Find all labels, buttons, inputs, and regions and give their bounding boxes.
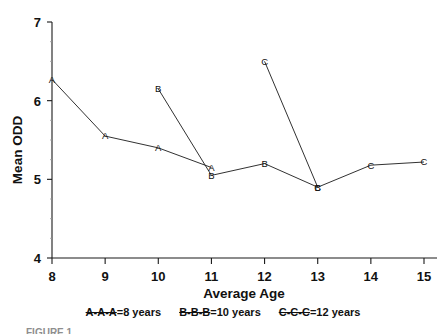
x-tick-label: 15 (417, 269, 431, 284)
data-point-A-9: A (102, 130, 109, 141)
x-tick-label: 14 (364, 269, 379, 284)
x-tick-label: 8 (48, 269, 55, 284)
data-point-C-14: C (367, 160, 374, 171)
legend-label: =8 years (117, 306, 161, 318)
data-point-B-11: B (208, 170, 214, 181)
legend-key: C-C-C (279, 306, 310, 318)
x-tick-label: 11 (205, 269, 219, 284)
x-tick-label: 13 (310, 269, 324, 284)
legend-label: =10 years (210, 306, 260, 318)
legend-entry-C: C-C-C=12 years (279, 306, 361, 318)
y-tick-label: 7 (34, 15, 41, 30)
y-tick-label: 4 (34, 251, 42, 266)
x-axis-title: Average Age (203, 286, 285, 301)
legend-entry-A: A-A-A=8 years (86, 306, 162, 318)
series-marker-group: AAAABBBBCCCC (49, 56, 428, 193)
x-tick-group: 89101112131415 (48, 258, 431, 284)
legend-key: A-A-A (86, 306, 117, 318)
y-tick-label: 6 (34, 94, 41, 109)
data-point-B-10: B (155, 83, 161, 94)
data-point-C-15: C (421, 156, 428, 167)
figure-caption-partial: FIGURE 1. (0, 327, 446, 334)
legend-label: =12 years (310, 306, 360, 318)
y-tick-group: 4567 (34, 15, 52, 266)
y-axis-title: Mean ODD (10, 116, 25, 185)
x-tick-label: 9 (102, 269, 109, 284)
chart-canvas: 4567 89101112131415 AAAABBBBCCCC Average… (0, 0, 446, 334)
series-line-B (158, 89, 317, 187)
x-tick-label: 12 (257, 269, 271, 284)
line-chart: 4567 89101112131415 AAAABBBBCCCC Average… (0, 0, 446, 334)
series-line-C (265, 61, 424, 187)
x-tick-label: 10 (151, 269, 165, 284)
chart-page: 4567 89101112131415 AAAABBBBCCCC Average… (0, 0, 446, 334)
data-point-C-12: C (261, 56, 268, 67)
data-point-C-13: C (314, 182, 321, 193)
legend-entry-B: B-B-B=10 years (179, 306, 261, 318)
chart-legend: A-A-A=8 yearsB-B-B=10 yearsC-C-C=12 year… (0, 306, 446, 318)
y-tick-label: 5 (34, 172, 41, 187)
legend-key: B-B-B (179, 306, 210, 318)
series-line-A (52, 79, 211, 167)
data-point-A-8: A (49, 74, 56, 85)
data-point-A-10: A (155, 142, 162, 153)
data-point-B-12: B (261, 158, 267, 169)
